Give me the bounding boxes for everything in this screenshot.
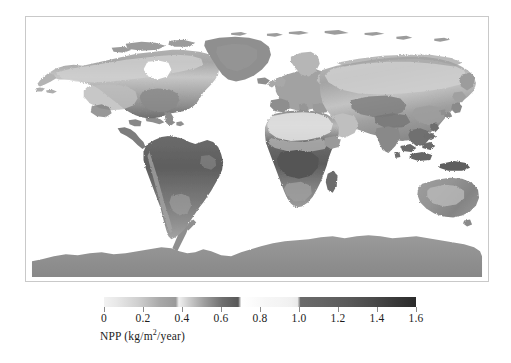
- colorbar-axis-title: NPP (kg/m2/year): [100, 330, 185, 342]
- colorbar-tick-label: 0.8: [253, 312, 268, 324]
- colorbar-tick-label: 1.0: [292, 312, 307, 324]
- colorbar-tick-labels: 00.20.40.60.81.01.21.41.6: [0, 312, 511, 328]
- colorbar-tick-label: 0.4: [175, 312, 190, 324]
- figure-container: 00.20.40.60.81.01.21.41.6 NPP (kg/m2/yea…: [0, 0, 511, 363]
- colorbar-title-head: NPP (kg/m: [100, 330, 153, 342]
- colorbar-gradient: [104, 297, 416, 307]
- colorbar-tick-label: 1.4: [370, 312, 385, 324]
- colorbar-tick-label: 0: [101, 312, 107, 324]
- world-npp-map: [25, 16, 489, 282]
- colorbar-tick-label: 0.2: [136, 312, 151, 324]
- colorbar-tick-label: 0.6: [214, 312, 229, 324]
- colorbar-title-tail: /year): [157, 330, 185, 342]
- colorbar-legend: 00.20.40.60.81.01.21.41.6 NPP (kg/m2/yea…: [0, 288, 511, 363]
- colorbar-tick-label: 1.6: [409, 312, 424, 324]
- map-canvas: [26, 17, 488, 281]
- colorbar-tick-label: 1.2: [331, 312, 346, 324]
